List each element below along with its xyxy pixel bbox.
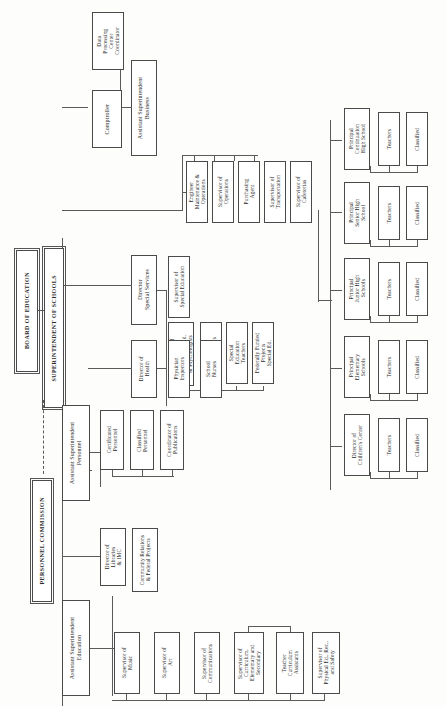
connector-elementary-bar bbox=[370, 400, 418, 401]
node-classified-elementary[interactable]: Classified bbox=[406, 340, 428, 394]
node-asst-supt-personnel[interactable]: Assistant Superintendent Personnel bbox=[62, 405, 90, 501]
connector-to-principal-continuation bbox=[330, 140, 342, 141]
connector-edu-c4 bbox=[248, 694, 249, 701]
node-school-nurses[interactable]: School Nurses bbox=[200, 340, 222, 398]
node-data-processing-center-coordinator[interactable]: Data Processing Center Coordinator bbox=[92, 12, 124, 70]
node-principal-junior-high-schools[interactable]: Principal Junior High Schools bbox=[344, 258, 370, 320]
node-personnel-commission[interactable]: PERSONNEL COMMISSION bbox=[32, 480, 52, 602]
node-label: Classified bbox=[413, 201, 421, 226]
node-label: Data Processing Center Coordinator bbox=[95, 26, 122, 56]
connector-education-bar bbox=[112, 700, 324, 701]
connector-spine-to-special-services bbox=[62, 285, 88, 286]
connector-cont-c2 bbox=[417, 166, 418, 173]
node-teachers-junior[interactable]: Teachers bbox=[378, 262, 400, 316]
connector-principals-feed bbox=[318, 210, 319, 302]
node-director-special-services[interactable]: Director Special Services bbox=[131, 255, 157, 325]
node-label: Supervisor of Physical Ed., Rec., and Sa… bbox=[316, 640, 336, 685]
connector-principals-spine bbox=[330, 120, 331, 490]
node-special-education-teachers[interactable]: Special Education Teachers bbox=[226, 322, 248, 384]
node-supervisor-of-art[interactable]: Supervisor of Art bbox=[154, 632, 180, 694]
node-label: Supervisor of Transportation bbox=[268, 174, 282, 210]
node-classified-childrens-center[interactable]: Classified bbox=[406, 418, 428, 472]
node-label: School Nurses bbox=[204, 360, 218, 378]
node-coordinator-of-publications[interactable]: Coordinator of Publications bbox=[160, 410, 184, 470]
node-board-of-education[interactable]: BOARD OF EDUCATION bbox=[16, 250, 38, 372]
connector-ss-stub bbox=[157, 290, 167, 291]
connector-education-spine bbox=[112, 596, 113, 696]
node-supervisor-of-cafeterias[interactable]: Supervisor of Cafeterias bbox=[290, 161, 312, 223]
node-label: Supervisor of Art bbox=[160, 646, 174, 679]
node-teachers-continuation[interactable]: Teachers bbox=[378, 112, 400, 166]
connector-jr-c0 bbox=[370, 316, 371, 323]
node-asst-supt-education[interactable]: Assistant Superintendent Education bbox=[62, 600, 90, 696]
connector-edu-c6 bbox=[324, 694, 325, 701]
connector-to-special-services bbox=[88, 285, 132, 286]
node-physician-inspectors[interactable]: Physician Inspectors bbox=[168, 340, 190, 398]
node-teachers-childrens-center[interactable]: Teachers bbox=[378, 418, 400, 472]
node-classified-continuation[interactable]: Classified bbox=[406, 112, 428, 166]
node-label: Teachers bbox=[385, 434, 393, 456]
connector-cont-c1 bbox=[389, 166, 390, 173]
connector-edu-c3 bbox=[206, 694, 207, 701]
node-label: Classified bbox=[413, 433, 421, 458]
node-supervisor-of-operations[interactable]: Supervisor of Operations bbox=[212, 161, 234, 223]
connector-ss-c4 bbox=[263, 386, 264, 391]
node-label: Special Education Teachers bbox=[227, 340, 247, 365]
node-label: Classified bbox=[413, 277, 421, 302]
node-engineer-maintenance-operations[interactable]: Engineer Maintenance & Operations bbox=[186, 161, 208, 223]
connector-jr-c1 bbox=[389, 316, 390, 323]
node-label: Assistant Superintendent Education bbox=[68, 616, 83, 680]
node-director-of-health[interactable]: Director of Health bbox=[131, 340, 157, 398]
node-teachers-senior[interactable]: Teachers bbox=[378, 186, 400, 240]
node-asst-supt-business[interactable]: Assistant Superintendent Business bbox=[131, 60, 157, 156]
node-purchasing-agent[interactable]: Purchasing Agent bbox=[238, 161, 260, 223]
node-label: Classified bbox=[413, 355, 421, 380]
node-supervisor-of-music[interactable]: Supervisor of Music bbox=[114, 632, 140, 694]
connector-cc-c2 bbox=[417, 472, 418, 479]
connector-curriculum-b1 bbox=[248, 626, 249, 633]
node-label: Classified Personnel bbox=[135, 428, 149, 453]
connector-cc-c1 bbox=[389, 472, 390, 479]
connector-op-3 bbox=[234, 155, 235, 161]
node-principal-continuation-high-school[interactable]: Principal Continuation High School bbox=[344, 108, 370, 170]
node-supervisor-physical-ed[interactable]: Supervisor of Physical Ed., Rec., and Sa… bbox=[312, 632, 340, 694]
node-community-relations-federal-projects[interactable]: Community Relations & Federal Projects bbox=[132, 528, 158, 592]
node-supervisor-of-communications[interactable]: Supervisor of Communications bbox=[194, 632, 220, 694]
connector-personnel-c1 bbox=[112, 470, 113, 477]
node-supervisor-of-special-education[interactable]: Supervisor of Special Education bbox=[168, 256, 190, 318]
node-teachers-elementary[interactable]: Teachers bbox=[378, 340, 400, 394]
node-label: Teachers bbox=[385, 202, 393, 224]
node-label: Supervisor of Special Education bbox=[172, 265, 186, 309]
node-superintendent-of-schools[interactable]: SUPERINTENDENT OF SCHOOLS bbox=[44, 248, 64, 408]
node-certificated-personnel[interactable]: Certificated Personnel bbox=[100, 410, 124, 470]
node-principal-senior-high-school[interactable]: Principal Senior High School bbox=[344, 182, 370, 244]
node-label: Director Special Services bbox=[136, 268, 151, 311]
node-teacher-curriculum-assistants[interactable]: Teacher Curriculum Assistants bbox=[276, 632, 304, 694]
node-classified-junior[interactable]: Classified bbox=[406, 262, 428, 316]
node-director-of-childrens-center[interactable]: Director of Children's Center bbox=[344, 414, 370, 476]
node-label: Director of Health bbox=[137, 355, 151, 382]
node-director-of-libraries-imc[interactable]: Director of Libraries & IMC bbox=[100, 528, 126, 586]
connector-curriculum-b2 bbox=[290, 626, 291, 633]
connector-cont-c0 bbox=[370, 166, 371, 173]
connector-spine-to-asst-business bbox=[62, 107, 88, 108]
node-classified-personnel[interactable]: Classified Personnel bbox=[130, 410, 154, 470]
node-label: Certificated Personnel bbox=[105, 425, 119, 454]
node-principal-elementary-schools[interactable]: Principal Elementary Schools bbox=[344, 336, 370, 398]
node-federally-funded-projects-special-ed[interactable]: Federally Funded Projects Special Ed. bbox=[252, 322, 274, 384]
node-label: Principal Senior High School bbox=[347, 198, 367, 228]
connector-senior-bar bbox=[370, 246, 418, 247]
connector-el-c0 bbox=[370, 394, 371, 401]
node-supervisor-of-transportation[interactable]: Supervisor of Transportation bbox=[264, 161, 286, 223]
node-classified-senior[interactable]: Classified bbox=[406, 186, 428, 240]
connector-sen-c1 bbox=[389, 240, 390, 247]
node-label: Coordinator of Publications bbox=[165, 422, 179, 458]
node-label: Principal Elementary Schools bbox=[347, 353, 367, 381]
connector-to-principal-junior bbox=[330, 290, 342, 291]
node-label: Engineer Maintenance & Operations bbox=[187, 173, 207, 210]
connector-personnel-c2 bbox=[142, 470, 143, 477]
connector-el-c2 bbox=[417, 394, 418, 401]
connector-to-childrens-center bbox=[330, 446, 342, 447]
node-comptroller[interactable]: Comptroller bbox=[92, 90, 122, 148]
node-supervisor-of-curriculum[interactable]: Supervisor of Curriculum, Elementary and… bbox=[234, 632, 264, 694]
